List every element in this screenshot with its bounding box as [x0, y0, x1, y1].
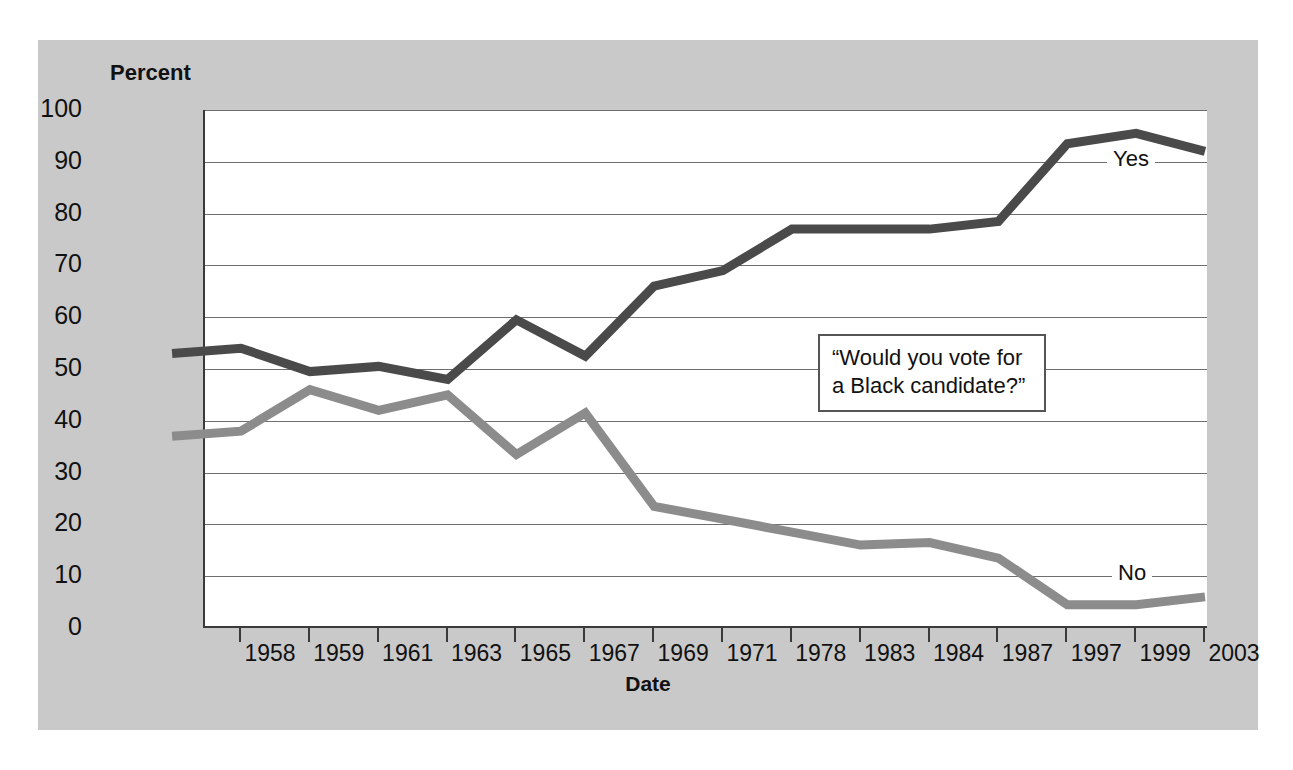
y-tick-label: 0 [0, 612, 82, 641]
y-tick-label: 90 [0, 146, 82, 175]
annotation-box: “Would you vote for a Black candidate?” [818, 334, 1046, 412]
y-tick-label: 80 [0, 198, 82, 227]
y-tick-label: 70 [0, 249, 82, 278]
series-line-yes [172, 133, 1205, 379]
chart-figure: Percent 0102030405060708090100 195819591… [38, 40, 1258, 730]
y-tick-label: 50 [0, 353, 82, 382]
annotation-line-2: a Black candidate?” [832, 372, 1032, 400]
y-axis-title: Percent [110, 60, 191, 86]
y-tick-label: 100 [0, 94, 82, 123]
y-tick-label: 40 [0, 405, 82, 434]
series-label-no: No [1112, 560, 1152, 586]
series-lines [205, 110, 1209, 628]
x-tick-label: 2003 [1194, 640, 1274, 667]
series-line-no [172, 390, 1205, 605]
plot-area [203, 110, 1207, 628]
series-label-yes: Yes [1107, 146, 1155, 172]
y-tick-label: 20 [0, 508, 82, 537]
y-tick-label: 10 [0, 560, 82, 589]
x-axis-title: Date [38, 672, 1258, 696]
y-tick-label: 30 [0, 457, 82, 486]
annotation-line-1: “Would you vote for [832, 344, 1032, 372]
y-tick-label: 60 [0, 301, 82, 330]
